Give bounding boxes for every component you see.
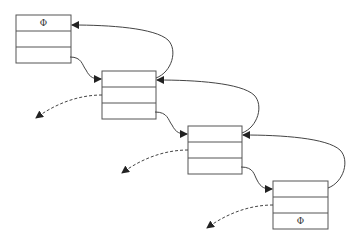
next-link-2-3 (155, 112, 187, 134)
linked-list-diagram: Φ Φ (0, 0, 358, 243)
prev-link-4-3 (243, 135, 345, 188)
dashed-link-node-4 (207, 205, 273, 228)
node-2 (102, 71, 156, 119)
node-3 (188, 126, 242, 174)
next-link-3-4 (241, 167, 272, 189)
node-1: Φ (16, 15, 71, 63)
next-link-1-2 (70, 57, 101, 79)
null-symbol: Φ (297, 216, 304, 226)
dashed-link-node-2 (36, 95, 102, 118)
dashed-link-node-3 (122, 150, 188, 173)
prev-link-2-1 (72, 25, 173, 78)
node-4: Φ (273, 181, 328, 229)
null-symbol: Φ (40, 18, 47, 28)
